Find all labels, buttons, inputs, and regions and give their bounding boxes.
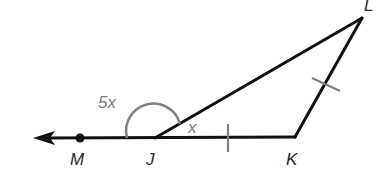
exterior-angle-arc [126,104,180,138]
exterior-angle-label: 5x [98,93,116,112]
point-label-k: K [286,150,298,169]
interior-angle-label: x [187,118,197,137]
triangle-diagram: 5x x M J K L [0,0,388,180]
point-label-l: L [364,0,373,15]
point-label-j: J [145,150,155,169]
ray-line-mj [48,137,295,138]
point-m-dot [76,134,85,143]
segment-jl [155,18,362,138]
point-label-m: M [70,150,85,169]
